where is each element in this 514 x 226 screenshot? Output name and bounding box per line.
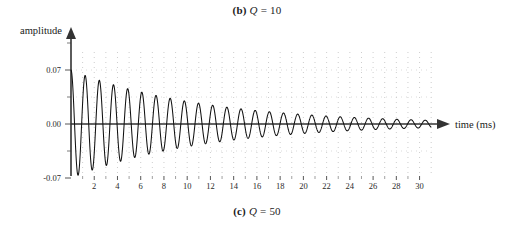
x-tick-label: 22: [322, 181, 331, 191]
figure-caption-bottom: (c) Q = 50: [0, 205, 514, 217]
x-tick-label: 26: [369, 181, 378, 191]
x-tick-label: 12: [206, 181, 215, 191]
x-tick-label: 4: [115, 181, 120, 191]
damped-oscillation-chart: 24681012141618202224262830 -0.070.000.07…: [0, 22, 514, 202]
y-tick-label: 0.00: [46, 119, 61, 129]
caption-bottom-symbol: Q: [249, 205, 257, 217]
x-axis-title: time (ms): [455, 119, 496, 131]
x-tick-label: 20: [299, 181, 308, 191]
x-tick-label: 14: [229, 181, 238, 191]
x-tick-label: 2: [92, 181, 96, 191]
x-tick-labels: 24681012141618202224262830: [92, 181, 424, 191]
x-tick-label: 16: [253, 181, 262, 191]
x-tick-label: 6: [139, 181, 143, 191]
caption-top-symbol: Q: [250, 4, 258, 16]
caption-bottom-label: (c): [233, 205, 246, 217]
caption-bottom-value: = 50: [257, 205, 281, 217]
x-tick-label: 8: [162, 181, 166, 191]
chart-plot-area: 24681012141618202224262830 -0.070.000.07…: [0, 22, 514, 202]
y-tick-label: 0.07: [46, 65, 61, 75]
caption-top-label: (b): [233, 4, 247, 16]
waveform-trace: [71, 70, 431, 175]
y-axis-arrow-icon: [66, 27, 76, 39]
x-tick-label: 10: [183, 181, 192, 191]
x-tick-label: 24: [346, 181, 355, 191]
y-tick-label: -0.07: [43, 173, 61, 183]
x-axis-arrow-icon: [437, 119, 450, 129]
y-tick-labels: -0.070.000.07: [43, 65, 61, 183]
x-tick-label: 18: [276, 181, 285, 191]
x-tick-label: 30: [415, 181, 424, 191]
y-axis-title: amplitude: [20, 25, 62, 36]
x-tick-label: 28: [392, 181, 401, 191]
caption-top-value: = 10: [258, 4, 282, 16]
figure-caption-top: (b) Q = 10: [0, 4, 514, 16]
